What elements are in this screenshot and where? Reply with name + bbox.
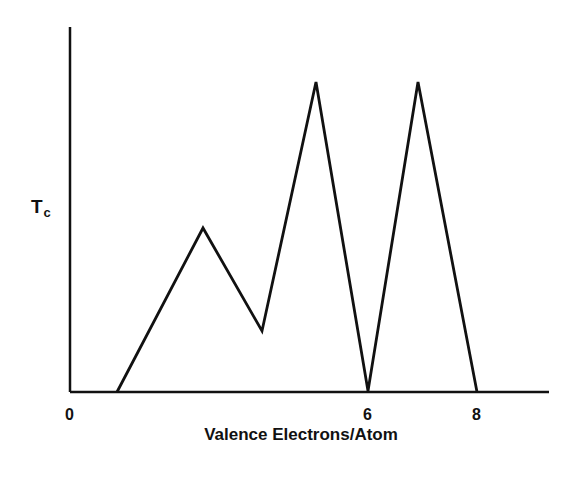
y-axis-label-main: T: [31, 196, 43, 217]
x-tick-label-0: 0: [65, 406, 74, 424]
tc-curve: [117, 82, 477, 392]
y-axis-label: Tc: [31, 196, 51, 220]
x-tick-label-8: 8: [472, 406, 481, 424]
y-axis-label-subscript: c: [44, 205, 51, 220]
x-tick-label-6: 6: [363, 406, 372, 424]
x-axis-label: Valence Electrons/Atom: [0, 425, 574, 445]
chart-canvas: [0, 0, 574, 478]
